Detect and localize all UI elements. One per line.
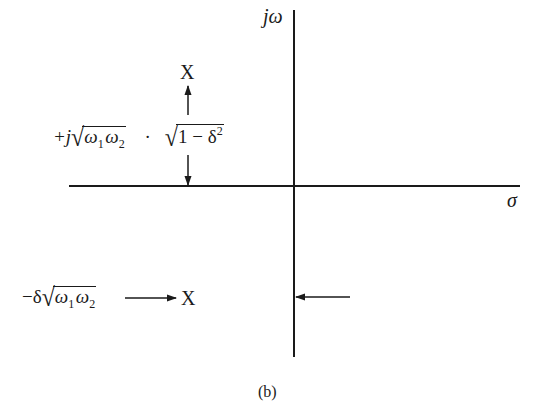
pole-marker-lower: X (181, 288, 195, 308)
real-axis-label: σ (507, 190, 517, 210)
figure-caption: (b) (258, 384, 277, 400)
radicand-omega1-omega2: ω1 ω2 (82, 126, 125, 150)
sqrt-icon: √ (42, 284, 55, 310)
imaginary-axis-label: jω (263, 6, 283, 26)
real-prefix: −δ (22, 286, 42, 307)
radicand-omega1-omega2: ω1 ω2 (53, 286, 96, 310)
sqrt-icon: √ (71, 124, 84, 150)
real-part-annotation: −δ√ω1 ω2 (22, 285, 96, 310)
pole-marker-upper: X (180, 62, 194, 82)
sqrt-icon: √ (165, 124, 178, 150)
multiply-dot: · (144, 126, 150, 147)
radicand-one-minus-delta-squared: 1 − δ2 (176, 124, 224, 146)
imag-prefix: +j (53, 126, 71, 147)
imaginary-part-annotation: +j√ω1 ω2 ·√1 − δ2 (53, 124, 224, 150)
s-plane-canvas (0, 0, 533, 414)
